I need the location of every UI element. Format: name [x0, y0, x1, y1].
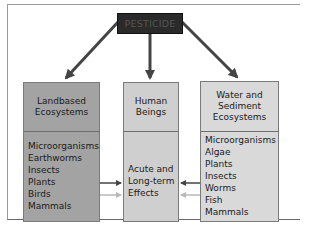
human-title: Human Beings	[124, 83, 178, 132]
title-line: Beings	[135, 107, 167, 118]
list-item: Plants	[28, 176, 99, 188]
human-beings-node: Human Beings Acute and Long-term Effects	[123, 82, 179, 222]
title-line: Sediment	[213, 101, 266, 112]
list-item: Mammals	[28, 200, 99, 212]
list-item: Effects	[128, 187, 178, 199]
title-line: Ecosystems	[213, 112, 266, 123]
list-item: Fish	[205, 194, 278, 206]
list-item: Microorganisms	[205, 134, 278, 146]
list-item: Acute and	[128, 163, 178, 175]
arrow-to-water	[182, 22, 237, 77]
title-line: Landbased	[35, 96, 88, 107]
list-item: Mammals	[205, 206, 278, 218]
list-item: Earthworms	[28, 152, 99, 164]
human-items: Acute and Long-term Effects	[124, 131, 178, 221]
water-title: Water and Sediment Ecosystems	[201, 82, 278, 132]
landbased-title: Landbased Ecosystems	[24, 83, 99, 132]
arrow-to-landbased	[66, 22, 118, 78]
landbased-items: Microorganisms Earthworms Insects Plants…	[24, 131, 99, 221]
water-sediment-ecosystems-node: Water and Sediment Ecosystems Microorgan…	[200, 81, 279, 222]
list-item: Worms	[205, 182, 278, 194]
list-item: Long-term	[128, 175, 178, 187]
landbased-ecosystems-node: Landbased Ecosystems Microorganisms Eart…	[23, 82, 100, 222]
list-item: Birds	[28, 188, 99, 200]
list-item: Insects	[28, 164, 99, 176]
title-line: Ecosystems	[35, 107, 88, 118]
list-item: Insects	[205, 170, 278, 182]
list-item: Algae	[205, 146, 278, 158]
list-item: Plants	[205, 158, 278, 170]
list-item: Microorganisms	[28, 140, 99, 152]
water-items: Microorganisms Algae Plants Insects Worm…	[201, 131, 278, 221]
pesticide-node: PESTICIDE	[117, 13, 183, 34]
title-line: Water and	[213, 90, 266, 101]
title-line: Human	[135, 96, 167, 107]
